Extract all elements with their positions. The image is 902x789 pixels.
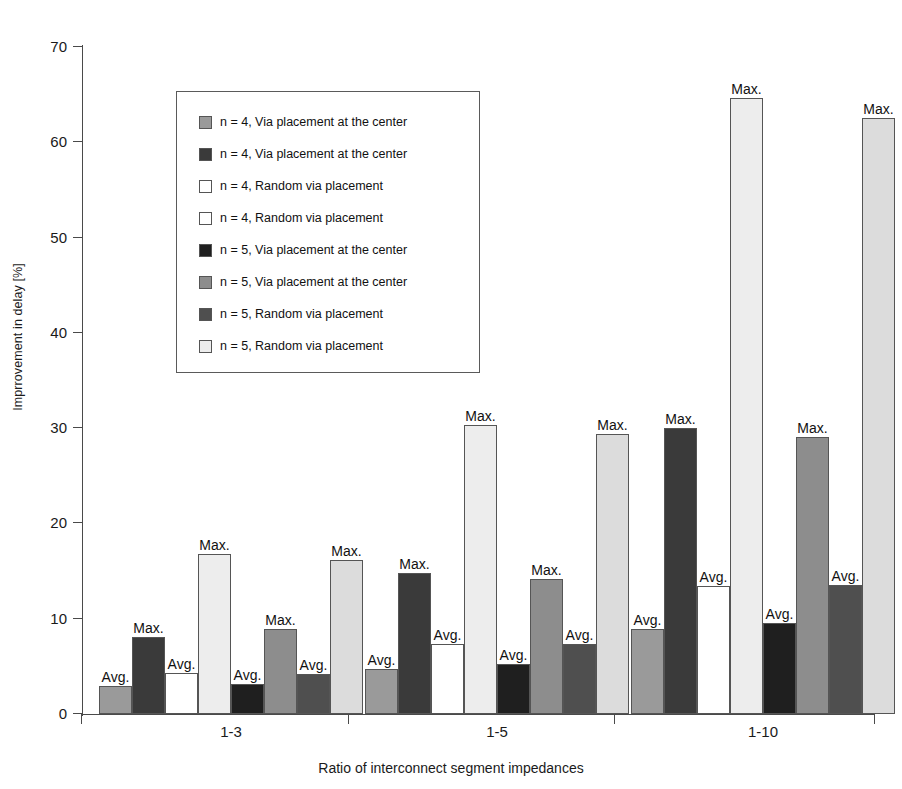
bar-value-annotation: Avg. xyxy=(102,669,130,685)
bar[interactable]: Avg. xyxy=(231,684,264,714)
bar-value-annotation: Avg. xyxy=(500,647,528,663)
bar[interactable]: Max. xyxy=(596,434,629,714)
bar-value-annotation: Avg. xyxy=(832,568,860,584)
x-axis-group-label: 1-10 xyxy=(611,723,902,740)
bar-slot: Avg. xyxy=(497,47,530,714)
bar-value-annotation: Max. xyxy=(265,612,295,628)
bar[interactable]: Max. xyxy=(330,560,363,714)
bar-value-annotation: Max. xyxy=(133,620,163,636)
x-axis-divider-tick xyxy=(614,714,615,724)
bar-group-bars: Avg.Max.Avg.Max.Avg.Max.Avg.Max. xyxy=(99,47,363,714)
bar-chart-figure: 010203040506070 Imprrovement in delay [%… xyxy=(0,0,902,789)
bar[interactable]: Max. xyxy=(530,579,563,714)
bar-value-annotation: Max. xyxy=(399,556,429,572)
bar-slot: Max. xyxy=(464,47,497,714)
bar[interactable]: Avg. xyxy=(563,644,596,715)
bar[interactable]: Max. xyxy=(198,554,231,714)
bar-value-annotation: Avg. xyxy=(434,627,462,643)
y-axis-tick-label: 0 xyxy=(59,704,67,723)
bar-slot: Avg. xyxy=(431,47,464,714)
bar[interactable]: Max. xyxy=(132,637,165,714)
bar-value-annotation: Max. xyxy=(863,101,893,117)
plot-area: Avg.Max.Avg.Max.Avg.Max.Avg.Max.Avg.Max.… xyxy=(82,47,872,714)
bar[interactable]: Avg. xyxy=(829,585,862,714)
bar[interactable]: Avg. xyxy=(431,644,464,714)
bar-slot: Avg. xyxy=(697,47,730,714)
x-axis-group-label: 1-3 xyxy=(79,723,383,740)
y-axis-tick-mark xyxy=(73,522,82,523)
y-axis-tick-label: 60 xyxy=(50,132,67,151)
bar-slot: Max. xyxy=(264,47,297,714)
y-axis-tick-label: 50 xyxy=(50,228,67,247)
bar[interactable]: Avg. xyxy=(165,673,198,714)
bar-value-annotation: Max. xyxy=(531,562,561,578)
y-axis-title: Imprrovement in delay [%] xyxy=(11,57,25,617)
bar-slot: Max. xyxy=(664,47,697,714)
bar-slot: Avg. xyxy=(165,47,198,714)
bar-value-annotation: Avg. xyxy=(368,652,396,668)
bar[interactable]: Max. xyxy=(398,573,431,714)
bar[interactable]: Avg. xyxy=(99,686,132,714)
bar-slot: Max. xyxy=(530,47,563,714)
x-axis-divider-tick xyxy=(874,714,875,724)
bar-slot: Avg. xyxy=(563,47,596,714)
y-axis-tick-mark xyxy=(73,237,82,238)
bar-value-annotation: Max. xyxy=(199,537,229,553)
bar-value-annotation: Avg. xyxy=(700,569,728,585)
bar-value-annotation: Avg. xyxy=(566,627,594,643)
bar[interactable]: Avg. xyxy=(631,629,664,714)
y-axis-tick-mark xyxy=(73,618,82,619)
bar-value-annotation: Avg. xyxy=(168,656,196,672)
bar-slot: Avg. xyxy=(99,47,132,714)
bar[interactable]: Max. xyxy=(664,428,697,714)
bar-value-annotation: Max. xyxy=(797,420,827,436)
bar-slot: Max. xyxy=(730,47,763,714)
bar[interactable]: Avg. xyxy=(297,674,330,714)
bar[interactable]: Max. xyxy=(264,629,297,714)
bar-value-annotation: Avg. xyxy=(634,612,662,628)
bar[interactable]: Max. xyxy=(730,98,763,714)
bar-slot: Avg. xyxy=(829,47,862,714)
bar-slot: Max. xyxy=(132,47,165,714)
bar-slot: Avg. xyxy=(365,47,398,714)
x-axis-divider-tick xyxy=(81,714,82,724)
y-axis-tick-mark xyxy=(73,332,82,333)
bar-value-annotation: Max. xyxy=(597,417,627,433)
bar[interactable]: Max. xyxy=(796,437,829,714)
bar[interactable]: Avg. xyxy=(763,623,796,714)
bar-value-annotation: Avg. xyxy=(300,657,328,673)
bar-group: Avg.Max.Avg.Max.Avg.Max.Avg.Max. xyxy=(365,47,629,714)
y-axis-tick-label: 10 xyxy=(50,609,67,628)
bar-slot: Max. xyxy=(796,47,829,714)
y-axis-tick-label: 20 xyxy=(50,513,67,532)
bar-group: Avg.Max.Avg.Max.Avg.Max.Avg.Max. xyxy=(99,47,363,714)
bar-slot: Avg. xyxy=(231,47,264,714)
bar-value-annotation: Max. xyxy=(665,411,695,427)
bar-slot: Max. xyxy=(398,47,431,714)
y-axis-tick-label: 30 xyxy=(50,418,67,437)
bar-value-annotation: Max. xyxy=(331,543,361,559)
bar-slot: Max. xyxy=(198,47,231,714)
bar-value-annotation: Max. xyxy=(465,408,495,424)
y-axis-tick-label: 70 xyxy=(50,37,67,56)
x-axis-divider-tick xyxy=(348,714,349,724)
bar-group-bars: Avg.Max.Avg.Max.Avg.Max.Avg.Max. xyxy=(631,47,895,714)
bar[interactable]: Avg. xyxy=(697,586,730,714)
bar[interactable]: Max. xyxy=(464,425,497,714)
bar-group-bars: Avg.Max.Avg.Max.Avg.Max.Avg.Max. xyxy=(365,47,629,714)
bar[interactable]: Avg. xyxy=(497,664,530,714)
bar-value-annotation: Max. xyxy=(731,81,761,97)
y-axis-tick-mark xyxy=(73,46,82,47)
bar-slot: Max. xyxy=(862,47,895,714)
bar[interactable]: Avg. xyxy=(365,669,398,714)
bar-slot: Avg. xyxy=(763,47,796,714)
bar-group: Avg.Max.Avg.Max.Avg.Max.Avg.Max. xyxy=(631,47,895,714)
x-axis-line xyxy=(81,714,874,715)
x-axis-group-label: 1-5 xyxy=(345,723,649,740)
bar-slot: Avg. xyxy=(297,47,330,714)
bar-value-annotation: Avg. xyxy=(234,667,262,683)
bar[interactable]: Max. xyxy=(862,118,895,714)
y-axis-tick-label: 40 xyxy=(50,323,67,342)
bar-slot: Max. xyxy=(596,47,629,714)
bar-slot: Max. xyxy=(330,47,363,714)
